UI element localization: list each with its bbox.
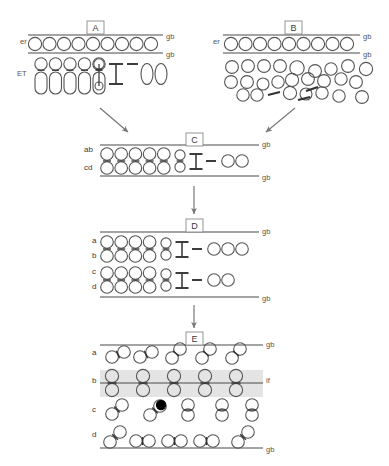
boundary-labels: gbgb — [166, 32, 174, 59]
paired-unit — [115, 267, 128, 294]
paired-cell-top — [129, 236, 142, 249]
boundary-label-gb: gb — [266, 445, 274, 454]
dumbbell-marker — [176, 273, 189, 288]
boundary-label-gb: gb — [262, 173, 270, 182]
free-cell — [222, 274, 235, 287]
panel-label-letter: C — [191, 135, 198, 145]
cell-junction — [203, 351, 209, 356]
paired-cell-top — [101, 236, 114, 249]
ab-group — [101, 236, 249, 263]
scattered-cell — [237, 89, 249, 101]
er-cell — [57, 37, 70, 50]
arrow-a-to-c — [100, 108, 128, 132]
cd-group — [101, 267, 235, 294]
scattered-cell — [356, 91, 369, 104]
free-cell — [222, 243, 235, 256]
boundary-label-gb: gb — [363, 50, 371, 59]
er-cell — [28, 37, 41, 50]
et-body-cell — [79, 72, 91, 94]
er-cell — [72, 37, 85, 50]
row-d-pair — [194, 435, 220, 448]
cell — [106, 351, 119, 364]
side-labels: abcd — [92, 236, 97, 291]
scattered-cell — [316, 87, 328, 99]
er-cell — [253, 37, 266, 50]
paired-cell-top — [115, 236, 128, 249]
paired-unit — [101, 236, 114, 263]
paired-unit — [129, 236, 142, 263]
side-label-b: b — [92, 251, 97, 260]
panel-a: gbgberETA — [17, 21, 174, 94]
paired-cell-bottom — [143, 281, 156, 294]
er-cell — [144, 37, 157, 50]
panel-label-c: C — [186, 133, 203, 146]
paired-cell-bottom-small — [175, 162, 185, 172]
scattered-cell — [318, 75, 331, 88]
row-c-pair — [216, 399, 229, 422]
cell-junction — [173, 351, 179, 356]
et-head-cell — [49, 58, 61, 70]
boundary-label-if: if — [266, 376, 271, 385]
side-label-d: d — [92, 430, 96, 439]
row-d-pair — [130, 435, 156, 448]
cell — [134, 351, 147, 364]
paired-unit — [129, 148, 142, 175]
paired-cell-top-small — [161, 238, 171, 248]
paired-unit — [115, 236, 128, 263]
et-unit-row — [35, 58, 105, 94]
panel-label-b: B — [285, 21, 302, 34]
scattered-cell — [325, 63, 337, 75]
arrow-b-to-c — [266, 108, 295, 132]
scattered-cell — [226, 61, 239, 74]
cell-junction — [233, 351, 239, 356]
cell-junction — [152, 408, 157, 414]
row-a-pair — [106, 346, 131, 364]
scattered-cell — [285, 73, 298, 86]
paired-cell-bottom — [101, 162, 114, 175]
panel-label-e: E — [186, 332, 203, 345]
side-label-ab: ab — [84, 145, 93, 154]
scattered-cell — [258, 60, 271, 73]
boundary-labels: gbgb — [262, 140, 270, 182]
cell — [146, 346, 159, 359]
et-small-unit — [94, 59, 104, 90]
cell — [130, 435, 143, 448]
cell — [175, 435, 188, 448]
boundary-labels: gbgb — [262, 227, 270, 303]
et-head-cell — [78, 58, 90, 70]
er-cell — [224, 37, 237, 50]
er-cell — [340, 37, 353, 50]
cell — [232, 436, 245, 449]
free-cell-row — [222, 155, 249, 168]
scattered-cell — [335, 73, 347, 85]
et-head-cell — [35, 58, 47, 70]
side-label-ET: ET — [17, 69, 27, 78]
panel-label-d: D — [186, 219, 203, 232]
row-c — [106, 399, 259, 422]
paired-unit — [115, 148, 128, 175]
er-cell-row — [28, 37, 157, 50]
row-d-pair — [104, 426, 127, 449]
side-label-c: c — [92, 405, 96, 414]
cell — [242, 426, 255, 439]
scattered-cell — [302, 73, 315, 86]
paired-unit — [129, 267, 142, 294]
panel-e: gbifgbabcdE — [92, 332, 274, 454]
er-cell — [43, 37, 56, 50]
scattered-cell — [251, 89, 263, 101]
er-cell — [86, 37, 99, 50]
cell-junction — [114, 407, 119, 413]
small-paired-unit — [161, 238, 171, 260]
paired-cell-bottom — [129, 250, 142, 263]
boundary-label-gb: gb — [363, 32, 371, 41]
panel-label-letter: D — [191, 221, 198, 231]
cell — [143, 435, 156, 448]
paired-cell-bottom-small — [161, 281, 171, 291]
side-label-c: c — [92, 267, 96, 276]
panel-b: gbgberB — [213, 21, 373, 103]
scattered-cell — [342, 60, 355, 73]
free-cell — [208, 274, 221, 287]
small-paired-unit — [161, 269, 171, 291]
row-a-pair — [196, 343, 217, 365]
side-labels: abcd — [84, 145, 93, 172]
